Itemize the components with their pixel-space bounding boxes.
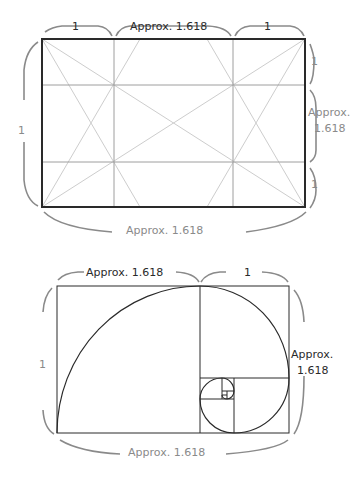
right-segment-label-bottom: 1 — [311, 178, 318, 191]
spiral-width-label-phi: Approx. 1.618 — [86, 266, 163, 279]
top-width-label-1: 1 — [72, 20, 79, 33]
top-diagram — [24, 26, 316, 232]
top-width-label-phi: Approx. 1.618 — [130, 20, 207, 33]
spiral-height-label: 1 — [39, 358, 46, 371]
measurement-braces — [24, 26, 316, 232]
right-segment-label-top: 1 — [311, 55, 318, 68]
fibonacci-squares — [57, 286, 289, 433]
bottom-diagram — [43, 272, 304, 454]
top-width-label-1b: 1 — [264, 20, 271, 33]
golden-ratio-figure — [0, 0, 358, 478]
top-bottom-label: Approx. 1.618 — [126, 224, 203, 237]
spiral-bottom-label: Approx. 1.618 — [128, 446, 205, 459]
spiral-right-label-1: Approx. — [291, 348, 333, 361]
golden-spiral — [57, 286, 289, 433]
top-height-label: 1 — [18, 124, 25, 137]
right-segment-label-phi-2: 1.618 — [314, 122, 346, 135]
diagonal-lines — [42, 39, 305, 207]
measurement-braces — [43, 272, 304, 454]
spiral-width-label-1: 1 — [244, 266, 251, 279]
spiral-right-label-2: 1.618 — [297, 364, 329, 377]
right-segment-label-phi-1: Approx. — [308, 106, 350, 119]
